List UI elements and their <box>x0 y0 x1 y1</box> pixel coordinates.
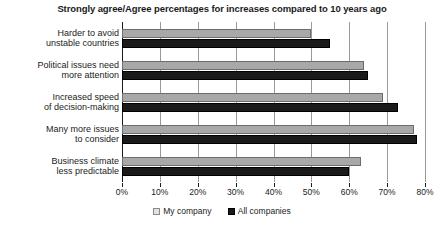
x-axis-tick-label: 80% <box>405 187 444 197</box>
x-axis-tick-label: 10% <box>140 187 180 197</box>
y-axis-label-line: more attention <box>0 70 119 81</box>
bar <box>122 157 361 166</box>
legend-label-all-companies: All companies <box>238 206 291 216</box>
bar <box>122 39 330 48</box>
bar <box>122 103 398 112</box>
y-axis-label-5: Business climateless predictable <box>0 156 119 177</box>
plot-area <box>122 22 425 182</box>
x-axis-tick-label: 20% <box>178 187 218 197</box>
x-axis-tick-label: 40% <box>254 187 294 197</box>
bar <box>122 93 383 102</box>
chart-legend: My company All companies <box>0 206 444 216</box>
y-axis-label-line: of decision-making <box>0 102 119 113</box>
chart-title: Strongly agree/Agree percentages for inc… <box>0 3 444 14</box>
y-axis-label-line: less predictable <box>0 166 119 177</box>
y-axis-label-line: Political issues need <box>0 60 119 71</box>
bar <box>122 167 349 176</box>
x-axis-tick-label: 70% <box>367 187 407 197</box>
y-axis-label-2: Political issues needmore attention <box>0 60 119 81</box>
legend-item-my-company[interactable]: My company <box>153 206 211 216</box>
y-axis-label-line: Increased speed <box>0 92 119 103</box>
legend-swatch-my-company <box>153 208 160 215</box>
x-axis-tick-label: 0% <box>102 187 142 197</box>
bar <box>122 135 417 144</box>
x-axis-tick-label: 30% <box>216 187 256 197</box>
y-axis-label-line: Harder to avoid <box>0 28 119 39</box>
y-axis-label-line: unstable countries <box>0 38 119 49</box>
bar <box>122 71 368 80</box>
bar <box>122 29 311 38</box>
legend-item-all-companies[interactable]: All companies <box>228 206 291 216</box>
y-axis-label-1: Harder to avoidunstable countries <box>0 28 119 49</box>
y-axis-label-line: Business climate <box>0 156 119 167</box>
y-axis-label-line: to consider <box>0 134 119 145</box>
gridline <box>425 22 426 182</box>
chart-container: Strongly agree/Agree percentages for inc… <box>0 0 444 240</box>
y-axis-label-3: Increased speedof decision-making <box>0 92 119 113</box>
y-axis-label-4: Many more issuesto consider <box>0 124 119 145</box>
bar <box>122 125 414 134</box>
y-axis-label-line: Many more issues <box>0 124 119 135</box>
legend-label-my-company: My company <box>163 206 211 216</box>
bar <box>122 61 364 70</box>
x-axis-tick-label: 50% <box>291 187 331 197</box>
legend-swatch-all-companies <box>228 208 235 215</box>
x-axis-tick-label: 60% <box>329 187 369 197</box>
